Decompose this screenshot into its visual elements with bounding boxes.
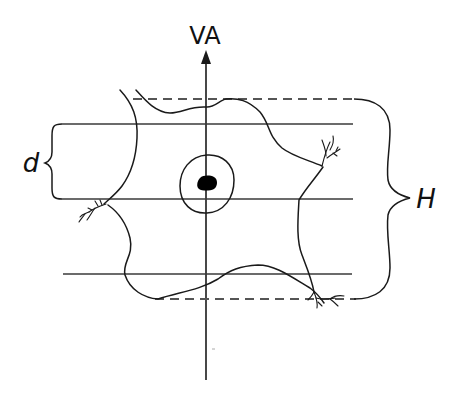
- cell-outline: [104, 90, 324, 303]
- nucleolus-blob: [197, 176, 217, 191]
- axis-label-va: VA: [189, 22, 221, 50]
- brace-label-d: d: [23, 148, 40, 178]
- left-brace: [45, 124, 62, 199]
- brace-label-h: H: [416, 184, 436, 214]
- right-brace: [354, 99, 410, 299]
- arrow-up-icon: [201, 50, 211, 64]
- cell-diagram: VA d H: [0, 0, 457, 397]
